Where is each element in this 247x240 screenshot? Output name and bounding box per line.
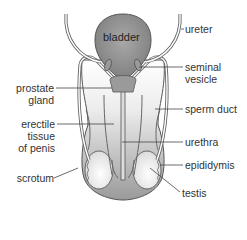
label-ureter: ureter — [185, 23, 212, 35]
label-erectile-tissue: erectile tissue of penis — [18, 118, 55, 154]
label-epididymis: epididymis — [185, 159, 235, 171]
label-seminal-vesicle: seminal vesicle — [185, 61, 221, 85]
label-sperm-duct: sperm duct — [185, 103, 237, 115]
bladder-label: bladder — [103, 31, 140, 43]
label-testis: testis — [182, 187, 207, 199]
label-prostate-gland: prostate gland — [16, 82, 54, 106]
urethra — [121, 85, 125, 180]
label-urethra: urethra — [185, 136, 218, 148]
prostate-gland — [110, 76, 136, 93]
label-scrotum: scrotum — [17, 172, 54, 184]
